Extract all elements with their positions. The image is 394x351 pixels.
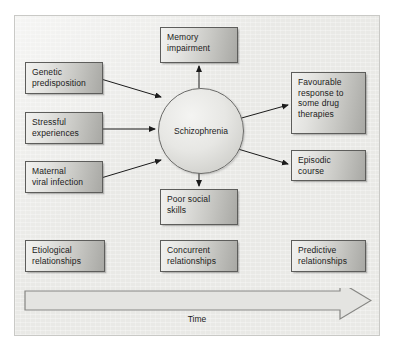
node-favourable-drug-response[interactable]: Favourableresponse tosome drugtherapies	[291, 72, 366, 134]
legend-etiological-relationships[interactable]: Etiologicalrelationships	[25, 240, 105, 272]
node-stressful-experiences[interactable]: Stressfulexperiences	[25, 112, 103, 144]
hub-label: Schizophrenia	[174, 126, 228, 136]
node-maternal-viral-infection[interactable]: Maternalviral infection	[25, 161, 103, 193]
node-episodic-course[interactable]: Episodiccourse	[291, 150, 366, 181]
node-genetic-predisposition[interactable]: Geneticpredisposition	[25, 62, 103, 94]
legend-predictive-relationships[interactable]: Predictiverelationships	[291, 240, 366, 272]
schizophrenia-relationship-diagram: Geneticpredisposition Stressfulexperienc…	[0, 0, 394, 351]
legend-concurrent-relationships[interactable]: Concurrentrelationships	[160, 240, 238, 272]
node-memory-impairment[interactable]: Memoryimpairment	[160, 27, 238, 63]
timeline-label: Time	[0, 314, 394, 324]
node-poor-social-skills[interactable]: Poor socialskills	[160, 189, 238, 225]
node-schizophrenia-hub[interactable]: Schizophrenia	[158, 88, 244, 174]
